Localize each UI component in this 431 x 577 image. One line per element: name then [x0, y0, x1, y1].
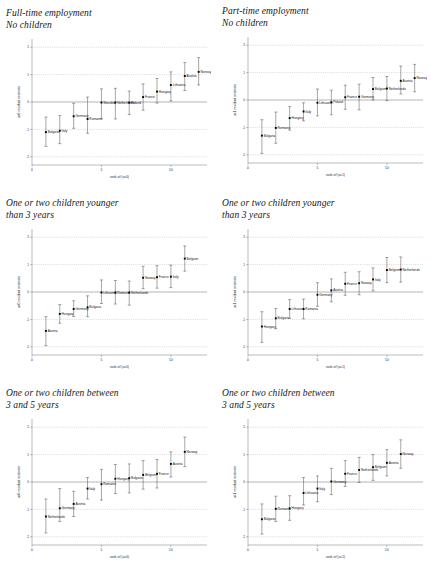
point-marker — [316, 102, 318, 104]
point-label: Germany — [333, 480, 347, 484]
point-marker — [142, 474, 144, 476]
point-marker — [73, 115, 75, 117]
x-axis-title: rank of (uc1) — [326, 555, 345, 559]
point-label: Italy — [305, 110, 311, 114]
point-label: Germany — [319, 293, 333, 297]
point-marker — [100, 102, 102, 104]
point-marker — [372, 88, 374, 90]
caterpillar-plot: -2-10120510rank of (uc0)uc0 residual est… — [6, 411, 211, 571]
data-point: Italy — [372, 268, 382, 291]
data-point: Austria — [385, 450, 398, 476]
panel-title: One or two children between 3 and 5 year… — [222, 388, 427, 411]
data-point: Austria — [169, 452, 182, 477]
point-marker — [400, 453, 402, 455]
x-tick-label: 10 — [169, 358, 173, 362]
point-label: France — [347, 472, 357, 476]
x-tick-label: 0 — [247, 166, 249, 170]
point-marker — [59, 313, 61, 315]
data-point: Romania — [114, 280, 130, 304]
y-tick-label: -2 — [26, 155, 29, 159]
y-tick-label: 0 — [27, 480, 29, 484]
y-axis-title: uc1 residual estimate — [233, 84, 237, 116]
x-tick-label: 0 — [31, 358, 33, 362]
point-label: France — [159, 275, 169, 279]
caterpillar-plot: -2-10120510rank of (uc1)uc1 residual est… — [222, 221, 427, 381]
y-axis-title: uc1 residual estimate — [233, 466, 237, 498]
point-label: Netherlands — [131, 291, 149, 295]
point-marker — [316, 294, 318, 296]
data-point: Hungary — [260, 312, 276, 343]
plot-area: -2-10120510rank of (uc0)uc0 residual est… — [6, 31, 211, 191]
point-label: Lithuania — [305, 491, 318, 495]
caterpillar-plot: -2-10120510rank of (uc0)uc0 residual est… — [6, 221, 211, 381]
y-axis-title: uc1 residual estimate — [233, 276, 237, 308]
point-marker — [128, 102, 130, 104]
point-label: Romania — [89, 117, 102, 121]
data-point: Lithuania — [100, 280, 116, 304]
y-tick-label: 0 — [243, 98, 245, 102]
panel-between35-uc0: One or two children between 3 and 5 year… — [6, 388, 211, 571]
data-point: Germany — [72, 301, 89, 317]
point-label: Germany — [75, 114, 89, 118]
data-point: Italy — [58, 116, 68, 144]
point-label: Romania — [278, 126, 291, 130]
point-marker — [142, 96, 144, 98]
point-marker — [261, 135, 263, 137]
point-marker — [184, 75, 186, 77]
point-marker — [87, 118, 89, 120]
point-marker — [45, 330, 47, 332]
point-label: France — [145, 95, 155, 99]
point-marker — [358, 282, 360, 284]
y-axis-title: uc0 residual estimate — [17, 466, 21, 498]
point-marker — [386, 462, 388, 464]
point-marker — [59, 130, 61, 132]
point-label: Slovakia — [103, 101, 115, 105]
data-point: Hungary — [156, 78, 172, 103]
point-label: France — [159, 472, 169, 476]
data-point: France — [142, 84, 155, 110]
y-tick-label: -1 — [242, 508, 245, 512]
data-point: Norway — [142, 266, 157, 288]
panel-title: One or two children younger than 3 years — [6, 198, 211, 221]
data-point: Norway — [358, 272, 373, 295]
y-tick-label: 0 — [27, 100, 29, 104]
point-marker — [142, 277, 144, 279]
data-point: Germany — [330, 468, 347, 494]
point-label: France — [347, 282, 357, 286]
point-label: Austria — [403, 79, 413, 83]
point-label: Belgium — [375, 465, 387, 469]
point-label: Italy — [375, 278, 381, 282]
data-point: Belgium — [142, 461, 157, 489]
y-axis-title: uc0 residual estimate — [17, 276, 21, 308]
y-tick-label: -1 — [242, 126, 245, 130]
x-tick-label: 10 — [385, 358, 389, 362]
x-tick-label: 5 — [317, 358, 319, 362]
y-tick-label: 1 — [27, 263, 29, 267]
point-label: Hungary — [291, 116, 303, 120]
data-point: Norway — [197, 58, 211, 85]
x-tick-label: 10 — [385, 548, 389, 552]
data-point: Lithuania — [302, 478, 318, 505]
panel-title: One or two children younger than 3 years — [222, 198, 427, 221]
data-point: Netherlands — [44, 499, 65, 533]
point-marker — [303, 492, 305, 494]
y-axis-title: uc0 residual estimate — [17, 86, 21, 118]
point-label: Netherlands — [389, 87, 407, 91]
data-point: Germany — [316, 283, 333, 307]
panel-younger3-uc1: One or two children younger than 3 years… — [222, 198, 427, 381]
point-marker — [184, 451, 186, 453]
data-point: Germany — [72, 103, 89, 128]
point-marker — [198, 71, 200, 73]
point-marker — [156, 276, 158, 278]
plot-area: -2-10120510rank of (uc0)uc0 residual est… — [6, 221, 211, 381]
point-marker — [386, 88, 388, 90]
figure-sheet: Full-time employment No children-2-10120… — [0, 0, 431, 577]
point-label: Italy — [62, 129, 68, 133]
panel-younger3-uc0: One or two children younger than 3 years… — [6, 198, 211, 381]
y-tick-label: 1 — [243, 71, 245, 75]
point-marker — [330, 481, 332, 483]
point-marker — [303, 111, 305, 113]
point-marker — [275, 317, 277, 319]
point-marker — [344, 96, 346, 98]
x-tick-label: 10 — [169, 168, 173, 172]
